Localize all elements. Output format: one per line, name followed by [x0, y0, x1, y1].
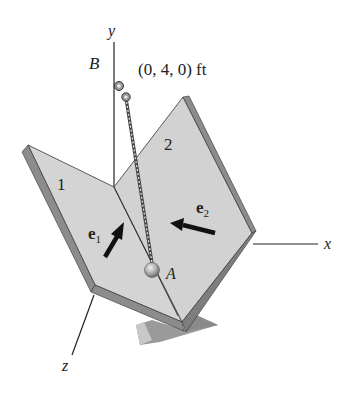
- eyebolt-B: [115, 82, 131, 102]
- plate-2-label: 2: [164, 135, 173, 154]
- point-B-coords: (0, 4, 0) ft: [138, 60, 207, 79]
- point-A-label: A: [165, 265, 176, 282]
- plate-1-label: 1: [57, 175, 66, 194]
- z-axis: [72, 295, 94, 355]
- e1-label-sub: 1: [96, 233, 102, 245]
- e2-label-sub: 2: [204, 207, 210, 219]
- y-axis-label: y: [106, 22, 116, 40]
- ball-A: [145, 263, 160, 278]
- point-B-label: B: [89, 54, 100, 73]
- vector-diagram: y x z B (0, 4, 0) ft A 1 2 e1 e2: [0, 0, 359, 395]
- x-axis-label: x: [323, 235, 331, 252]
- z-axis-label: z: [61, 357, 69, 374]
